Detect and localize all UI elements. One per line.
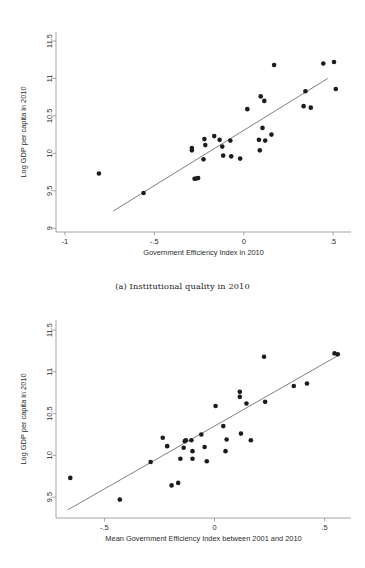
y-tick-label: 9.5: [45, 186, 54, 196]
scatter-point: [269, 132, 274, 137]
y-tick-label: 11.5: [45, 323, 54, 337]
x-tick-label: 0: [242, 237, 246, 246]
scatter-point: [202, 445, 207, 450]
scatter-point: [263, 400, 268, 405]
y-tick-label: 9.5: [45, 492, 54, 502]
x-tick-label: 0: [212, 523, 216, 532]
scatter-point: [244, 401, 249, 406]
scatter-point: [335, 352, 340, 357]
scatter-point: [217, 138, 222, 143]
x-tick-label: .5: [321, 523, 327, 532]
scatter-point: [203, 143, 208, 148]
y-tick-label: 10.5: [45, 406, 54, 420]
scatter-point: [238, 390, 243, 395]
scatter-point: [238, 395, 243, 400]
scatter-point: [118, 497, 123, 502]
scatter-point: [260, 126, 265, 131]
scatter-point: [239, 431, 244, 436]
scatter-point: [305, 381, 310, 386]
figure-two-panel-scatter: 99.51010.51111.5-1-.50.5Government Effic…: [0, 0, 365, 568]
scatter-point: [196, 176, 201, 181]
scatter-point: [257, 138, 262, 143]
y-tick-label: 10: [45, 451, 54, 459]
scatter-point: [334, 87, 339, 92]
scatter-point: [262, 99, 267, 104]
scatter-point: [201, 157, 206, 162]
x-axis-title: Mean Government Efficiency Index between…: [105, 534, 301, 543]
panel-a-caption: (a) Institutional quality in 2010: [0, 281, 365, 291]
scatter-plot-mean-efficiency-2001-2010: 9.51010.51111.5-.50.5Mean Government Eff…: [0, 306, 365, 556]
scatter-point: [223, 449, 228, 454]
scatter-point: [263, 138, 268, 143]
y-axis-title: Log GDP per capita in 2010: [19, 86, 28, 177]
scatter-point: [221, 424, 226, 429]
scatter-point: [160, 435, 165, 440]
scatter-point: [189, 438, 194, 443]
y-axis-title: Log GDP per capita in 2010: [19, 373, 28, 464]
scatter-point: [213, 404, 218, 409]
y-tick-label: 10.5: [45, 109, 54, 123]
panel-a-chart: 99.51010.51111.5-1-.50.5Government Effic…: [0, 18, 365, 270]
scatter-point: [165, 444, 170, 449]
scatter-point: [245, 107, 250, 112]
scatter-point: [190, 456, 195, 461]
regression-fit-line: [68, 355, 339, 510]
x-tick-label: -.5: [100, 523, 109, 532]
scatter-point: [169, 483, 174, 488]
x-tick-label: .5: [330, 237, 336, 246]
scatter-point: [308, 105, 313, 110]
scatter-point: [321, 61, 326, 66]
scatter-point: [68, 476, 73, 481]
scatter-point: [301, 104, 306, 109]
scatter-point: [291, 384, 296, 389]
x-axis-title: Government Efficiency Index in 2010: [143, 248, 264, 257]
x-tick-label: -1: [62, 237, 69, 246]
scatter-point: [228, 138, 233, 143]
scatter-point: [182, 439, 187, 444]
scatter-point: [224, 437, 229, 442]
scatter-point: [202, 137, 207, 142]
y-tick-label: 11: [45, 75, 54, 83]
scatter-point: [220, 144, 225, 149]
scatter-point: [238, 156, 243, 161]
scatter-point: [199, 432, 204, 437]
regression-fit-line: [113, 78, 328, 211]
y-tick-label: 11: [45, 368, 54, 376]
scatter-point: [97, 171, 102, 176]
scatter-point: [332, 60, 337, 65]
y-tick-label: 9: [45, 226, 54, 230]
scatter-point: [181, 446, 186, 451]
scatter-point: [221, 153, 226, 158]
scatter-point: [212, 134, 217, 139]
scatter-point: [272, 63, 277, 68]
scatter-point: [190, 148, 195, 153]
scatter-point: [249, 438, 254, 443]
y-tick-label: 10: [45, 149, 54, 157]
scatter-point: [229, 154, 234, 159]
x-tick-label: -.5: [150, 237, 159, 246]
scatter-point: [262, 354, 267, 359]
scatter-point: [258, 94, 263, 99]
scatter-point: [148, 460, 153, 465]
scatter-point: [190, 449, 195, 454]
scatter-point: [258, 148, 263, 153]
scatter-point: [205, 459, 210, 464]
scatter-plot-institutional-quality-2010: 99.51010.51111.5-1-.50.5Government Effic…: [0, 18, 365, 270]
scatter-point: [303, 89, 308, 94]
panel-b-chart: 9.51010.51111.5-.50.5Mean Government Eff…: [0, 306, 365, 556]
scatter-point: [141, 191, 146, 196]
y-tick-label: 11.5: [45, 34, 54, 48]
scatter-point: [176, 481, 181, 486]
scatter-point: [178, 456, 183, 461]
